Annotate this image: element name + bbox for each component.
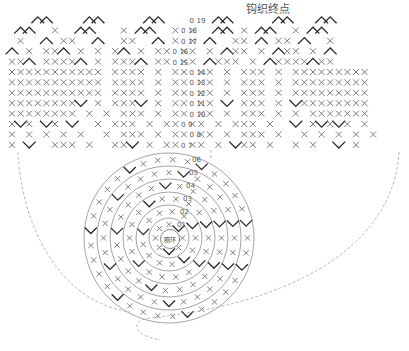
single-crochet-icon [250, 131, 256, 137]
single-crochet-icon [232, 278, 237, 283]
single-crochet-icon [224, 90, 230, 96]
round-number-label: 05 [189, 169, 198, 177]
single-crochet-icon [224, 79, 230, 85]
single-crochet-icon [147, 121, 153, 127]
single-crochet-icon [121, 111, 127, 117]
single-crochet-icon [362, 79, 368, 85]
single-crochet-icon [217, 250, 222, 255]
single-crochet-icon [319, 59, 325, 65]
single-crochet-icon [121, 142, 127, 148]
single-crochet-icon [181, 90, 187, 96]
slip-stitch-icon: 0 [190, 131, 194, 139]
slip-stitch-icon: 0 [181, 142, 185, 150]
single-crochet-icon [18, 111, 24, 117]
single-crochet-icon [129, 90, 135, 96]
single-crochet-icon [319, 111, 325, 117]
increase-icon [332, 142, 345, 148]
single-crochet-icon [61, 59, 67, 65]
single-crochet-icon [327, 111, 333, 117]
single-crochet-icon [177, 287, 182, 292]
single-crochet-icon [138, 90, 144, 96]
single-crochet-icon [160, 274, 165, 279]
single-crochet-icon [207, 69, 213, 75]
single-crochet-icon [310, 79, 316, 85]
increase-icon [289, 121, 302, 127]
single-crochet-icon [26, 90, 32, 96]
decrease-icon [307, 58, 320, 64]
single-crochet-icon [243, 250, 248, 255]
single-crochet-icon [267, 142, 273, 148]
increase-icon [112, 194, 124, 200]
single-crochet-icon [95, 69, 101, 75]
row-number-label: 11 [197, 100, 206, 108]
single-crochet-icon [207, 100, 213, 106]
single-crochet-icon [155, 48, 161, 54]
increase-icon [208, 262, 220, 268]
single-crochet-icon [327, 100, 333, 106]
single-crochet-icon [241, 69, 247, 75]
single-crochet-icon [88, 243, 93, 248]
single-crochet-icon [86, 90, 92, 96]
single-crochet-icon [114, 243, 119, 248]
single-crochet-icon [225, 207, 230, 212]
single-crochet-icon [353, 79, 359, 85]
single-crochet-icon [172, 38, 178, 44]
single-crochet-icon [121, 38, 127, 44]
single-crochet-icon [112, 142, 118, 148]
single-crochet-icon [172, 79, 178, 85]
single-crochet-icon [9, 69, 15, 75]
single-crochet-icon [129, 69, 135, 75]
single-crochet-icon [258, 100, 264, 106]
single-crochet-icon [293, 111, 299, 117]
single-crochet-icon [181, 131, 187, 137]
single-crochet-icon [152, 299, 157, 304]
single-crochet-icon [18, 38, 24, 44]
decrease-icon [57, 48, 70, 54]
single-crochet-icon [198, 142, 204, 148]
single-crochet-icon [212, 299, 217, 304]
single-crochet-icon [190, 248, 195, 253]
single-crochet-icon [362, 90, 368, 96]
slip-stitch-icon: 0 [181, 27, 185, 35]
round-number-label: 03 [183, 195, 192, 203]
single-crochet-icon [327, 38, 333, 44]
single-crochet-icon [26, 100, 32, 106]
single-crochet-icon [215, 121, 221, 127]
single-crochet-icon [336, 111, 342, 117]
increase-icon [23, 142, 36, 148]
single-crochet-icon [293, 142, 299, 148]
slip-stitch-icon: 0 [181, 121, 185, 129]
increase-icon [236, 264, 248, 270]
increase-icon [289, 100, 302, 106]
single-crochet-icon [319, 69, 325, 75]
single-crochet-icon [136, 193, 141, 198]
single-crochet-icon [78, 48, 84, 54]
single-crochet-icon [61, 142, 67, 148]
slip-stitch-icon: 0 [190, 90, 194, 98]
single-crochet-icon [18, 90, 24, 96]
single-crochet-icon [362, 121, 368, 127]
increase-icon [104, 263, 116, 269]
single-crochet-icon [157, 245, 162, 250]
single-crochet-icon [112, 69, 118, 75]
single-crochet-icon [112, 90, 118, 96]
single-crochet-icon [250, 69, 256, 75]
single-crochet-icon [127, 303, 132, 308]
single-crochet-icon [35, 90, 41, 96]
single-crochet-icon [147, 218, 152, 223]
single-crochet-icon [310, 142, 316, 148]
single-crochet-icon [207, 48, 213, 54]
increase-icon [178, 257, 190, 263]
single-crochet-icon [121, 131, 127, 137]
increase-icon [229, 142, 242, 148]
single-crochet-icon [181, 69, 187, 75]
single-crochet-icon [35, 111, 41, 117]
increase-icon [133, 260, 145, 266]
single-crochet-icon [69, 38, 75, 44]
single-crochet-icon [233, 59, 239, 65]
single-crochet-icon [43, 79, 49, 85]
single-crochet-icon [284, 59, 290, 65]
single-crochet-icon [69, 142, 75, 148]
single-crochet-icon [112, 79, 118, 85]
single-crochet-icon [195, 176, 200, 181]
